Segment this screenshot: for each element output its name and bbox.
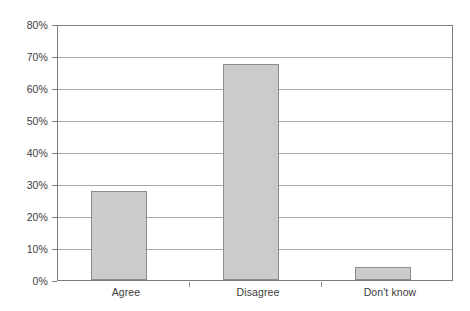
gridline-70 xyxy=(58,57,452,58)
ytick-mark-70 xyxy=(52,57,57,58)
xtick-mark-1 xyxy=(189,282,190,287)
ytick-label-20: 20% xyxy=(8,211,48,223)
ytick-mark-10 xyxy=(52,249,57,250)
bar-disagree xyxy=(223,64,279,280)
category-label-dont-know: Don't know xyxy=(327,286,453,298)
ytick-label-50: 50% xyxy=(8,115,48,127)
ytick-label-0: 0% xyxy=(8,275,48,287)
category-label-disagree: Disagree xyxy=(195,286,321,298)
ytick-label-10: 10% xyxy=(8,243,48,255)
xtick-mark-2 xyxy=(321,282,322,287)
ytick-mark-0 xyxy=(52,281,57,282)
ytick-label-40: 40% xyxy=(8,147,48,159)
ytick-label-30: 30% xyxy=(8,179,48,191)
ytick-mark-30 xyxy=(52,185,57,186)
category-label-agree: Agree xyxy=(63,286,189,298)
ytick-mark-20 xyxy=(52,217,57,218)
ytick-label-60: 60% xyxy=(8,83,48,95)
ytick-mark-80 xyxy=(52,25,57,26)
plot-area xyxy=(57,25,453,281)
bar-chart: 80% 70% 60% 50% 40% 30% 20% 10% 0% Agree… xyxy=(0,0,470,311)
bar-dont-know xyxy=(355,267,411,280)
ytick-mark-60 xyxy=(52,89,57,90)
ytick-label-80: 80% xyxy=(8,19,48,31)
ytick-mark-40 xyxy=(52,153,57,154)
ytick-label-70: 70% xyxy=(8,51,48,63)
bar-agree xyxy=(91,191,147,280)
ytick-mark-50 xyxy=(52,121,57,122)
